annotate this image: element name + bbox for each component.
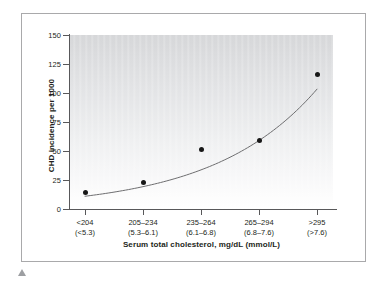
x-tick-label-1-bottom: (<5.3) <box>75 228 95 238</box>
data-point-5 <box>315 72 320 77</box>
x-tick-1 <box>85 209 86 215</box>
chart-plot: 0 25 50 75 100 125 150 <204 (<5.3) 205–2… <box>0 0 387 283</box>
data-point-4 <box>257 138 262 143</box>
y-tick-50 <box>63 151 69 152</box>
plot-background <box>70 35 333 209</box>
y-tick-100 <box>63 93 69 94</box>
x-axis-title: Serum total cholesterol, mg/dL (mmol/L) <box>70 240 333 249</box>
x-tick-label-2: 205–234 (5.3–6.1) <box>128 218 158 238</box>
triangle-marker-icon <box>18 269 26 276</box>
y-tick-label-150: 150 <box>48 31 61 40</box>
x-tick-label-3-bottom: (6.1–6.8) <box>186 228 216 238</box>
x-tick-label-5-bottom: (>7.6) <box>307 228 327 238</box>
gradient-streaks <box>70 35 333 209</box>
x-tick-label-1: <204 (<5.3) <box>75 218 95 238</box>
x-tick-4 <box>259 209 260 215</box>
data-point-3 <box>199 147 204 152</box>
x-tick-label-4-top: 265–294 <box>244 218 274 228</box>
y-axis-line <box>69 34 70 210</box>
x-tick-label-5-top: >295 <box>307 218 327 228</box>
y-tick-150 <box>63 35 69 36</box>
x-tick-label-5: >295 (>7.6) <box>307 218 327 238</box>
x-tick-label-3-top: 235–264 <box>186 218 216 228</box>
x-axis-line <box>69 209 337 210</box>
x-tick-label-4-bottom: (6.8–7.6) <box>244 228 274 238</box>
y-tick-125 <box>63 64 69 65</box>
x-tick-label-1-top: <204 <box>75 218 95 228</box>
y-tick-label-0: 0 <box>57 205 61 214</box>
x-tick-label-4: 265–294 (6.8–7.6) <box>244 218 274 238</box>
x-tick-label-2-bottom: (5.3–6.1) <box>128 228 158 238</box>
y-tick-25 <box>63 180 69 181</box>
y-tick-0 <box>63 209 69 210</box>
data-point-2 <box>141 180 146 185</box>
y-tick-75 <box>63 122 69 123</box>
x-tick-label-3: 235–264 (6.1–6.8) <box>186 218 216 238</box>
x-tick-5 <box>317 209 318 215</box>
data-point-1 <box>83 190 88 195</box>
y-axis-title: CHD incidence per 1000 <box>47 56 56 196</box>
x-tick-label-2-top: 205–234 <box>128 218 158 228</box>
figure-container: 0 25 50 75 100 125 150 <204 (<5.3) 205–2… <box>0 0 387 283</box>
x-tick-3 <box>201 209 202 215</box>
x-tick-2 <box>143 209 144 215</box>
